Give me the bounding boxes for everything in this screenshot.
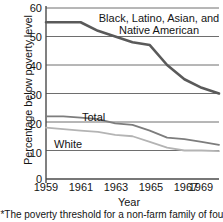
series-annotation-total: Total (82, 111, 105, 123)
series-annotation-minority-line2: Native American (96, 24, 222, 36)
series-annotation-minority-line1: Black, Latino, Asian, and (96, 12, 222, 24)
chart-footnote: *The poverty threshold for a non-farm fa… (0, 209, 223, 220)
x-axis-label: Year (38, 196, 220, 208)
series-annotation-minority: Black, Latino, Asian, and Native America… (96, 12, 222, 36)
series-annotation-white: White (54, 138, 82, 150)
poverty-rate-line-chart: Percentage below poverty level 60 50 40 … (0, 0, 223, 222)
